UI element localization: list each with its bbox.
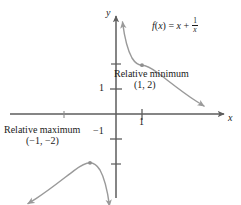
relative-minimum-coordinates: (1, 2) bbox=[134, 80, 156, 91]
relative-minimum-label: Relative minimum bbox=[114, 69, 189, 80]
minimum-point-marker bbox=[140, 63, 144, 67]
function-fraction: 1x bbox=[192, 17, 198, 33]
maximum-point-marker bbox=[88, 161, 92, 165]
relative-maximum-label: Relative maximum bbox=[4, 125, 80, 136]
function-expression-label: f(x) = x + 1x bbox=[152, 17, 198, 33]
curve-right-branch bbox=[123, 22, 205, 106]
fraction-numerator: 1 bbox=[192, 17, 198, 25]
function-plus: + bbox=[181, 20, 192, 31]
relative-maximum-coordinates: (−1, −2) bbox=[26, 136, 59, 147]
function-graph-figure: y x 1 −1 1 f(x) = x + 1x Relative minimu… bbox=[0, 0, 241, 205]
curve-left-branch bbox=[28, 163, 110, 205]
y-axis-label: y bbox=[106, 8, 110, 19]
axes-group bbox=[10, 16, 224, 198]
x-tick-label-1: 1 bbox=[139, 117, 144, 128]
fraction-denominator: x bbox=[192, 25, 198, 34]
x-axis-label: x bbox=[228, 113, 232, 124]
y-tick-label-negative-1: −1 bbox=[93, 126, 104, 137]
function-equals: = bbox=[166, 20, 177, 31]
y-tick-label-1: 1 bbox=[99, 83, 104, 94]
plot-canvas bbox=[0, 0, 241, 205]
